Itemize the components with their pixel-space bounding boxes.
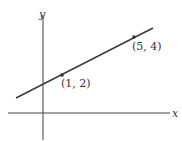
coordinate-plot: y x (1, 2) (5, 4) — [0, 0, 182, 141]
point-5-4-marker — [132, 35, 136, 39]
point-1-2-label: (1, 2) — [61, 77, 91, 90]
x-axis-label: x — [172, 107, 179, 120]
y-axis-label: y — [38, 8, 46, 21]
point-5-4-label: (5, 4) — [132, 40, 162, 53]
